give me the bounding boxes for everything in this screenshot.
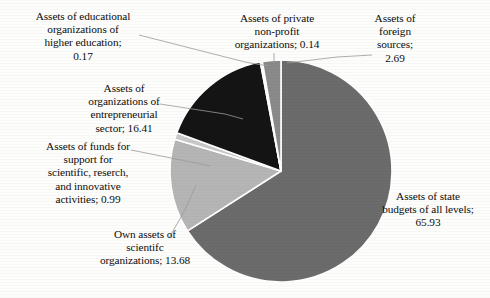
label-entrepreneurial: Assets of organizations of entrepreneuri…	[64, 82, 184, 135]
label-state: Assets of state budgets of all levels; 6…	[372, 190, 484, 230]
label-education: Assets of educational organizations of h…	[8, 10, 158, 63]
pie-chart-figure: Assets of state budgets of all levels; 6…	[0, 0, 490, 298]
label-private: Assets of private non-profit organizatio…	[222, 12, 332, 52]
label-foreign: Assets of foreign sources; 2.69	[356, 12, 434, 65]
label-funds: Assets of funds for support for scientif…	[22, 140, 154, 206]
label-own: Own assets of scientifc organizations; 1…	[78, 228, 212, 268]
